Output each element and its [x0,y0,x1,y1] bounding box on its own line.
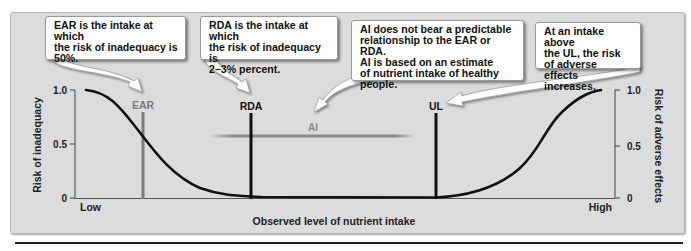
left-tick-0: 0 [61,193,67,204]
right-tick-0: 0 [627,193,633,204]
ai-callout: AI does not bear a predictable relations… [351,20,524,81]
ai-reference-band [210,135,416,138]
ul-callout: At an intake above the UL, the risk of a… [535,22,641,69]
right-tick-05: 0.5 [627,141,641,152]
left-tick-1: 1.0 [53,85,67,96]
x-axis-title: Observed level of nutrient intake [253,215,416,227]
x-tick-high: High [589,201,612,213]
left-axis-title: Risk of inadequacy [31,97,43,193]
ul-label: UL [429,100,444,112]
x-tick-low: Low [80,201,102,213]
right-axis-title: Risk of adverse effects [653,89,665,204]
ear-label: EAR [132,99,155,111]
rda-callout: RDA is the intake at which the risk of i… [200,16,338,60]
left-axis: 1.0 0.5 0 Risk of inadequacy [31,85,75,204]
rda-label: RDA [240,100,263,112]
bottom-rule [15,242,683,244]
adverse-effects-curve [436,90,601,198]
right-tick-1: 1.0 [627,85,641,96]
ai-label: AI [308,122,318,133]
left-tick-05: 0.5 [53,139,67,150]
ear-callout: EAR is the intake at which the risk of i… [45,16,186,60]
right-axis: 1.0 0.5 0 Risk of adverse effects [615,85,665,204]
